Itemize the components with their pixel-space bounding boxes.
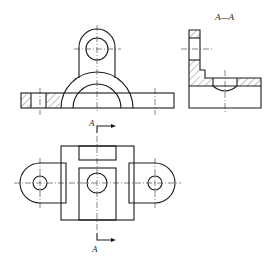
section-view-a-a: A—A [181, 12, 261, 114]
hatch-left-1 [21, 93, 31, 108]
section-label: A—A [214, 12, 235, 22]
top-view: A A [14, 118, 181, 254]
hatch-left-2 [46, 93, 60, 108]
base-plate [21, 93, 174, 108]
cut-marker-top: A [88, 118, 95, 128]
front-view [21, 25, 174, 115]
technical-drawing: A—A [0, 0, 273, 258]
cut-marker-bottom: A [91, 244, 98, 254]
